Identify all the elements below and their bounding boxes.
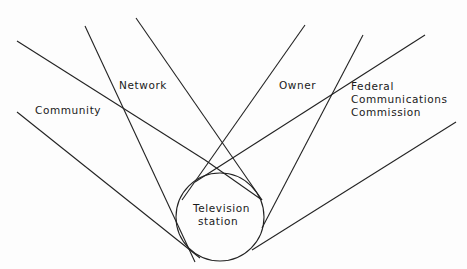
fcc-label-line1: Federal xyxy=(351,80,394,93)
owner-label: Owner xyxy=(279,79,316,92)
community-line-upper xyxy=(17,41,205,160)
television-station-label-line2: station xyxy=(198,215,238,228)
network-line-right xyxy=(136,18,262,200)
fcc-label-line3: Commission xyxy=(351,106,421,119)
fcc-line-lower xyxy=(252,122,456,250)
fcc-label-line2: Communications xyxy=(351,93,448,106)
network-line-left xyxy=(85,26,195,262)
diagram-lines xyxy=(0,0,467,269)
network-label: Network xyxy=(119,79,167,92)
community-label: Community xyxy=(35,104,101,117)
community-line-lower xyxy=(17,112,200,258)
influence-diagram: Community Network Owner Federal Communic… xyxy=(0,0,467,269)
community-line-upper-ext xyxy=(205,160,262,200)
television-station-label-line1: Television xyxy=(193,202,250,215)
